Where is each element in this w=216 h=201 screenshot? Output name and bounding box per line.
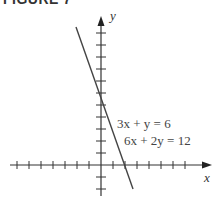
y-axis-arrow-icon bbox=[98, 16, 105, 26]
coordinate-graph: x y 3x + y = 6 6x + 2y = 12 bbox=[0, 0, 216, 201]
y-axis-label: y bbox=[108, 8, 116, 23]
equation-1: 3x + y = 6 bbox=[117, 116, 171, 131]
x-axis-label: x bbox=[203, 170, 210, 185]
x-axis: x bbox=[10, 161, 212, 185]
x-axis-arrow-icon bbox=[202, 162, 212, 169]
equation-2: 6x + 2y = 12 bbox=[124, 133, 191, 148]
